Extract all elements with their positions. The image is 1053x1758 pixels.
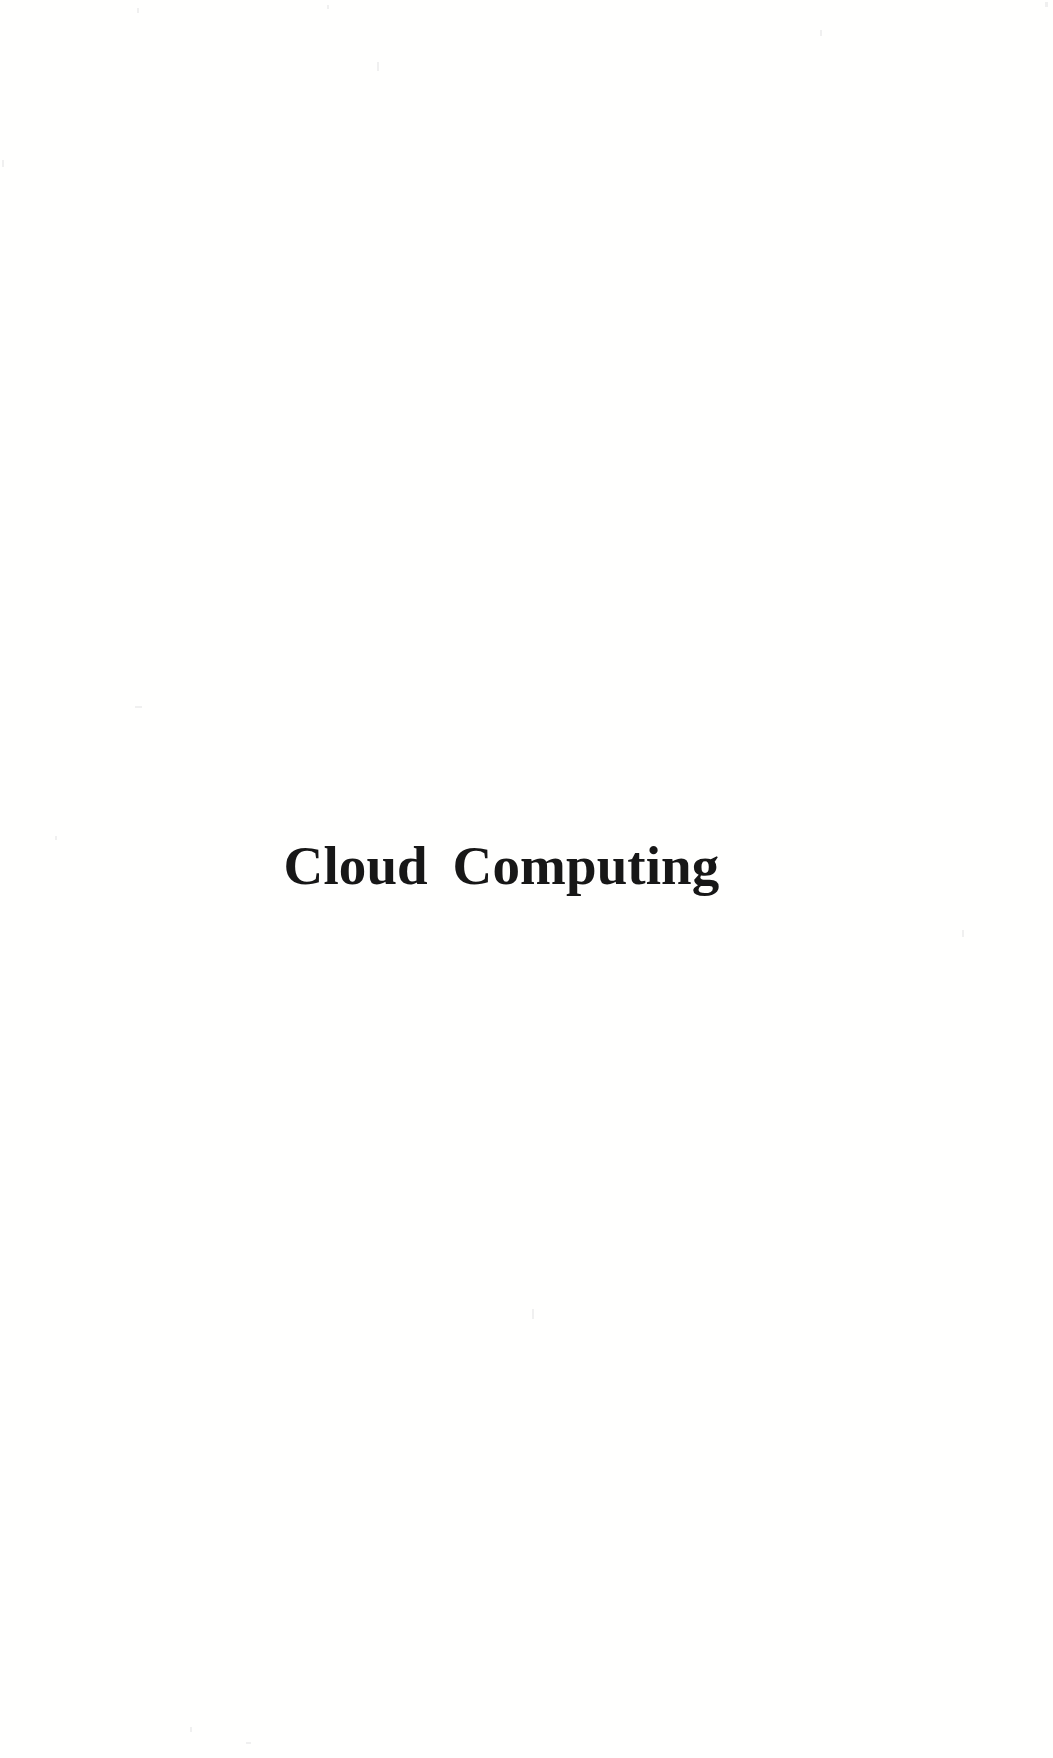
scan-speckle [135, 706, 142, 708]
scan-speckle [2, 160, 4, 167]
scan-speckle [377, 62, 379, 71]
scan-speckle [327, 5, 329, 9]
page-title: Cloud Computing [284, 836, 720, 895]
scan-speckle [1045, 2, 1048, 7]
scan-speckle [532, 1309, 534, 1319]
scan-speckle [190, 1727, 192, 1732]
scan-speckle [246, 1742, 251, 1744]
scanned-page: Cloud Computing [0, 0, 1053, 1758]
title-block: Cloud Computing [0, 836, 1053, 895]
scan-speckle [137, 8, 139, 13]
scan-speckle [962, 930, 964, 937]
scan-speckle [820, 30, 822, 36]
